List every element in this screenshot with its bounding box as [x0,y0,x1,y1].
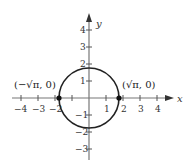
x-tick-label: −3 [32,104,46,114]
y-axis-label: y [95,18,102,29]
y-tick-label: −1 [75,110,88,120]
x-tick-label: −4 [14,104,28,114]
right-intercept-point [116,95,121,100]
y-tick-label: 3 [80,42,86,52]
x-axis-arrow-icon [165,95,174,101]
x-tick-label: 4 [155,104,161,114]
x-axis-label: x [177,93,183,104]
x-tick-label: 2 [121,104,127,114]
circle-graph: x y −4 −3 −2 1 2 3 4 4 3 2 1 −1 −2 −3 (−… [0,0,190,163]
y-tick-label: 4 [80,25,86,35]
y-tick-label: −3 [75,144,89,154]
left-point-label: (−√π, 0) [14,79,56,90]
x-tick-label: 1 [104,104,110,114]
right-point-label: (√π, 0) [122,79,156,90]
y-axis-arrow-icon [86,13,92,22]
x-tick-label: 3 [138,104,144,114]
left-intercept-point [56,95,61,100]
y-tick-label: 1 [80,76,86,86]
